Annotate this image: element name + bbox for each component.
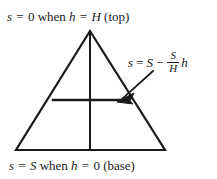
triangle-geometry-svg — [0, 0, 217, 179]
annotation-arrow-shaft — [122, 71, 153, 99]
fraction-numerator: S — [168, 50, 178, 62]
salinity-equation-annotation: s = S − S H h — [128, 50, 188, 74]
equation-trailing-var-h: h — [181, 56, 188, 69]
bottom-label-equals-2: = — [81, 158, 90, 173]
triangle-diagram-figure: s = 0 when h = H (top) s = S − S H h s =… — [0, 0, 217, 179]
fraction-denominator: H — [167, 63, 179, 75]
bottom-boundary-condition-label: s = S when h = 0 (base) — [9, 159, 135, 172]
equation-equals-sign: = — [133, 56, 146, 69]
bottom-label-when: when — [40, 158, 68, 173]
bottom-label-equals-1: = — [17, 158, 26, 173]
bottom-label-var-h: h — [71, 158, 78, 173]
equation-minus-sign: − — [153, 56, 166, 69]
bottom-label-var-s: s — [9, 158, 14, 173]
bottom-label-value-capital-s: S — [30, 158, 37, 173]
bottom-label-position-note: (base) — [103, 158, 135, 173]
equation-fraction-s-over-h: S H — [167, 50, 179, 74]
bottom-label-value-zero: 0 — [93, 158, 100, 173]
